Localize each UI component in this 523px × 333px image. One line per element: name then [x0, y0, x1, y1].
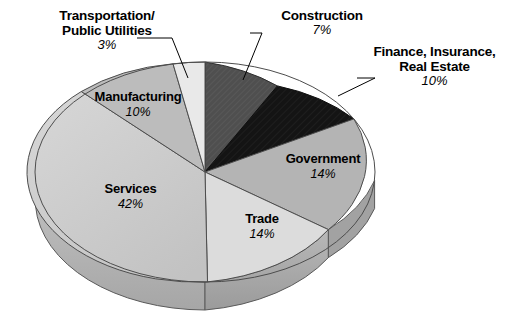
leader-line-construction [243, 33, 262, 80]
slice-label-finance-insurance-real-estate: Finance, Insurance, Real Estate 10% [352, 44, 517, 89]
slice-label-trade: Trade 14% [222, 212, 302, 241]
slice-label-name: Manufacturing [78, 90, 198, 105]
slice-label-construction: Construction 7% [252, 8, 392, 38]
slice-label-percent: 14% [268, 167, 378, 181]
slice-label-name: Government [268, 152, 378, 167]
slice-label-name: Construction [252, 8, 392, 23]
slice-label-percent: 7% [252, 23, 392, 38]
slice-label-percent: 10% [78, 105, 198, 119]
slice-label-name-line2: Real Estate [352, 59, 517, 74]
slice-label-manufacturing: Manufacturing 10% [78, 90, 198, 119]
pie-chart-figure: Transportation/ Public Utilities 3% Cons… [0, 0, 523, 333]
slice-label-transportation-public-utilities: Transportation/ Public Utilities 3% [22, 8, 192, 53]
slice-label-name: Finance, Insurance, [352, 44, 517, 59]
slice-label-name-line2: Public Utilities [22, 23, 192, 38]
slice-label-percent: 42% [78, 197, 183, 211]
slice-label-name: Services [78, 182, 183, 197]
slice-label-percent: 14% [222, 227, 302, 241]
slice-label-name: Transportation/ [22, 8, 192, 23]
slice-label-services: Services 42% [78, 182, 183, 211]
slice-label-percent: 10% [352, 74, 517, 89]
slice-label-government: Government 14% [268, 152, 378, 181]
slice-label-percent: 3% [22, 38, 192, 53]
slice-label-name: Trade [222, 212, 302, 227]
